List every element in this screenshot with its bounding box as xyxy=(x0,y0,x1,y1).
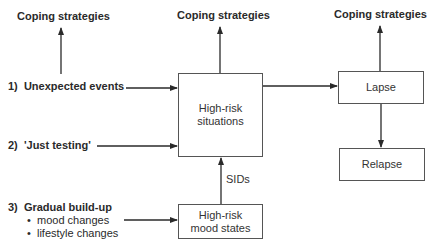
bullet-text: mood changes xyxy=(37,214,109,226)
box-high-risk-mood-states: High-risk mood states xyxy=(178,204,263,239)
box-label: High-risk situations xyxy=(191,102,251,128)
box-label: Relapse xyxy=(362,158,402,171)
bullet-mood-changes: • mood changes xyxy=(27,214,109,227)
box-high-risk-situations: High-risk situations xyxy=(178,73,263,157)
box-lapse: Lapse xyxy=(338,71,424,104)
trigger-number: 1) xyxy=(8,80,18,92)
bullet-dot-icon: • xyxy=(27,214,31,226)
trigger-number: 3) xyxy=(8,201,18,213)
trigger-label: Unexpected events xyxy=(24,80,124,92)
coping-strategies-label-2: Coping strategies xyxy=(177,9,270,22)
trigger-label: 'Just testing' xyxy=(24,139,91,151)
trigger-unexpected-events: 1) Unexpected events xyxy=(8,80,124,93)
sids-label: SIDs xyxy=(226,173,250,186)
bullet-text: lifestyle changes xyxy=(37,227,118,239)
coping-strategies-label-3: Coping strategies xyxy=(334,8,427,21)
bullet-dot-icon: • xyxy=(27,227,31,239)
trigger-number: 2) xyxy=(8,139,18,151)
trigger-just-testing: 2) 'Just testing' xyxy=(8,139,91,152)
trigger-gradual-build-up: 3) Gradual build-up xyxy=(8,201,112,214)
trigger-label: Gradual build-up xyxy=(24,201,112,213)
box-label: High-risk mood states xyxy=(186,209,256,235)
coping-strategies-label-1: Coping strategies xyxy=(17,10,110,23)
box-label: Lapse xyxy=(366,81,396,94)
box-relapse: Relapse xyxy=(339,148,425,181)
bullet-lifestyle-changes: • lifestyle changes xyxy=(27,227,118,240)
